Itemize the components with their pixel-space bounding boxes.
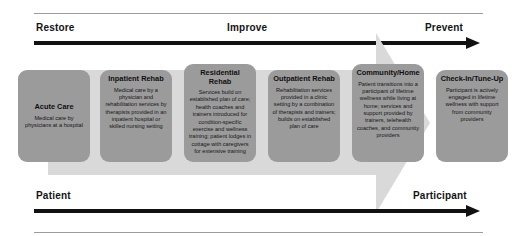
stage-residential-rehab[interactable]: Residential Rehab Services build on esta… <box>184 64 256 162</box>
stage-outpatient-rehab[interactable]: Outpatient Rehab Rehabilitation services… <box>268 70 340 162</box>
stage-inpatient-rehab[interactable]: Inpatient Rehab Medical care by a physic… <box>100 70 172 162</box>
stage-community-home[interactable]: Community/Home Patient transitions into … <box>352 64 424 162</box>
stage-description: Medical care by a physician and rehabili… <box>104 87 168 131</box>
top-arrow-head-icon <box>466 37 480 49</box>
bottom-progression-arrow <box>34 205 489 217</box>
stage-acute-care[interactable]: Acute Care Medical care by physicians at… <box>18 70 90 162</box>
axis-label-improve: Improve <box>227 22 267 33</box>
stage-title: Inpatient Rehab <box>108 75 163 84</box>
stage-description: Participant is actively engaged in lifet… <box>440 87 504 124</box>
stage-description: Patient transitions into a participant o… <box>356 81 420 140</box>
stage-check-in-tune-up[interactable]: Check-In/Tune-Up Participant is actively… <box>436 70 508 162</box>
stage-description: Rehabilitation services provided in a cl… <box>272 87 336 131</box>
stage-title: Outpatient Rehab <box>273 75 335 84</box>
stage-title: Community/Home <box>356 69 419 78</box>
stage-description: Services build on established plan of ca… <box>188 89 252 155</box>
axis-label-patient: Patient <box>36 190 71 201</box>
axis-label-restore: Restore <box>36 22 75 33</box>
bottom-arrow-shaft <box>34 209 471 213</box>
stage-description: Medical care by physicians at a hospital <box>22 115 86 130</box>
axis-label-prevent: Prevent <box>425 22 463 33</box>
axis-label-participant: Participant <box>413 190 467 201</box>
top-divider-rule <box>34 13 483 14</box>
stage-title: Check-In/Tune-Up <box>441 75 504 84</box>
care-continuum-diagram: Restore Improve Prevent Acute Care Medic… <box>0 0 517 236</box>
stage-title: Residential Rehab <box>188 69 252 86</box>
bottom-divider-rule <box>34 232 483 233</box>
bottom-arrow-head-icon <box>466 205 480 217</box>
stage-title: Acute Care <box>34 103 73 112</box>
